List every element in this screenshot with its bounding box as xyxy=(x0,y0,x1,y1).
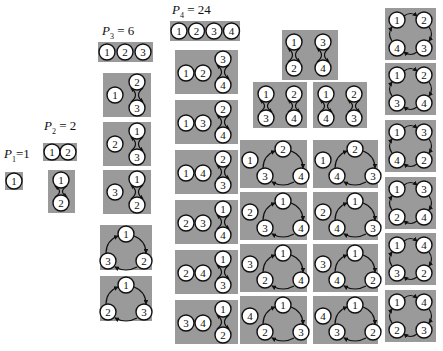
svg-text:1: 1 xyxy=(291,36,297,48)
svg-text:1: 1 xyxy=(394,239,400,251)
node-2: 2 xyxy=(129,74,145,90)
node-1: 1 xyxy=(107,87,123,103)
node-1: 1 xyxy=(389,294,405,310)
svg-text:1: 1 xyxy=(352,247,358,259)
svg-text:1: 1 xyxy=(183,67,189,79)
node-3: 3 xyxy=(257,220,273,236)
node-1: 1 xyxy=(286,34,302,50)
node-1: 1 xyxy=(275,193,291,209)
node-2: 2 xyxy=(178,215,194,231)
svg-text:4: 4 xyxy=(421,239,427,251)
svg-text:2: 2 xyxy=(58,197,64,209)
node-2: 2 xyxy=(117,44,133,60)
svg-text:2: 2 xyxy=(394,211,400,223)
node-4: 4 xyxy=(416,95,432,111)
svg-text:2: 2 xyxy=(352,143,358,155)
node-2: 2 xyxy=(315,204,331,220)
svg-text:3: 3 xyxy=(200,217,206,229)
node-1: 1 xyxy=(389,124,405,140)
svg-text:3: 3 xyxy=(134,102,140,114)
svg-text:2: 2 xyxy=(134,199,140,211)
node-2: 2 xyxy=(389,322,405,338)
node-3: 3 xyxy=(315,256,331,272)
node-1: 1 xyxy=(389,67,405,83)
node-2: 2 xyxy=(178,265,194,281)
svg-text:2: 2 xyxy=(220,329,226,341)
svg-text:4: 4 xyxy=(320,310,326,322)
node-3: 3 xyxy=(215,177,231,193)
node-1: 1 xyxy=(178,165,194,181)
svg-text:4: 4 xyxy=(298,170,304,182)
svg-text:4: 4 xyxy=(220,129,226,141)
svg-text:2: 2 xyxy=(280,143,286,155)
svg-text:3: 3 xyxy=(140,46,146,58)
svg-text:3: 3 xyxy=(200,117,206,129)
node-2: 2 xyxy=(416,152,432,168)
node-2: 2 xyxy=(257,324,273,340)
node-3: 3 xyxy=(416,181,432,197)
node-2: 2 xyxy=(416,12,432,28)
svg-text:3: 3 xyxy=(320,258,326,270)
node-2: 2 xyxy=(365,324,381,340)
svg-text:3: 3 xyxy=(320,36,326,48)
svg-text:3: 3 xyxy=(211,25,217,37)
svg-text:3: 3 xyxy=(334,326,340,338)
svg-text:3: 3 xyxy=(421,324,427,336)
svg-text:4: 4 xyxy=(247,310,253,322)
node-3: 3 xyxy=(129,100,145,116)
node-2: 2 xyxy=(346,86,362,102)
svg-text:4: 4 xyxy=(421,211,427,223)
svg-text:1: 1 xyxy=(280,247,286,259)
node-1: 1 xyxy=(275,245,291,261)
svg-text:1: 1 xyxy=(49,146,55,158)
svg-text:2: 2 xyxy=(122,46,128,58)
svg-text:3: 3 xyxy=(394,97,400,109)
svg-text:1: 1 xyxy=(280,299,286,311)
node-3: 3 xyxy=(416,322,432,338)
svg-text:1: 1 xyxy=(394,69,400,81)
node-4: 4 xyxy=(215,127,231,143)
node-4: 4 xyxy=(242,308,258,324)
node-4: 4 xyxy=(224,23,240,39)
svg-text:1: 1 xyxy=(134,125,140,137)
node-3: 3 xyxy=(178,315,194,331)
node-4: 4 xyxy=(389,152,405,168)
node-2: 2 xyxy=(136,253,152,269)
node-1: 1 xyxy=(389,237,405,253)
svg-text:4: 4 xyxy=(220,229,226,241)
node-2: 2 xyxy=(347,141,363,157)
node-1: 1 xyxy=(315,152,331,168)
svg-text:4: 4 xyxy=(334,222,340,234)
svg-text:2: 2 xyxy=(65,146,71,158)
svg-text:2: 2 xyxy=(200,67,206,79)
svg-text:4: 4 xyxy=(334,170,340,182)
svg-text:1: 1 xyxy=(220,253,226,265)
svg-text:3: 3 xyxy=(421,183,427,195)
node-3: 3 xyxy=(129,149,145,165)
svg-text:4: 4 xyxy=(298,274,304,286)
svg-text:4: 4 xyxy=(421,296,427,308)
node-2: 2 xyxy=(129,197,145,213)
svg-text:1: 1 xyxy=(123,279,129,291)
node-2: 2 xyxy=(53,195,69,211)
node-1: 1 xyxy=(99,44,115,60)
node-4: 4 xyxy=(329,220,345,236)
node-2: 2 xyxy=(389,209,405,225)
svg-text:3: 3 xyxy=(421,42,427,54)
node-1: 1 xyxy=(347,245,363,261)
svg-text:4: 4 xyxy=(394,154,400,166)
node-4: 4 xyxy=(389,40,405,56)
node-3: 3 xyxy=(135,44,151,60)
svg-text:2: 2 xyxy=(291,88,297,100)
svg-text:4: 4 xyxy=(298,222,304,234)
node-2: 2 xyxy=(275,141,291,157)
permutation-diagram: P1=1 P2 = 2 P3 = 6 P4 = 24 1121212312321… xyxy=(0,0,443,351)
node-4: 4 xyxy=(293,220,309,236)
svg-text:1: 1 xyxy=(394,126,400,138)
node-2: 2 xyxy=(416,67,432,83)
svg-text:1: 1 xyxy=(352,195,358,207)
svg-text:3: 3 xyxy=(112,186,118,198)
node-2: 2 xyxy=(242,204,258,220)
svg-text:1: 1 xyxy=(323,88,329,100)
node-4: 4 xyxy=(195,165,211,181)
